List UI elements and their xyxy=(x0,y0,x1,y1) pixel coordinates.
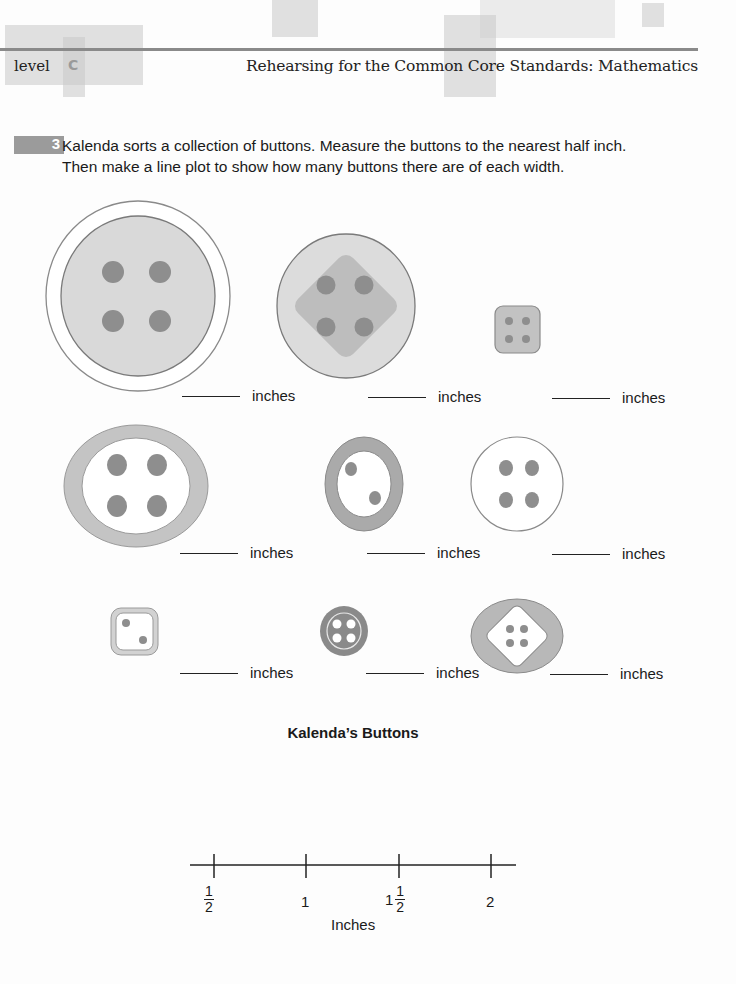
answer-4: inches xyxy=(180,544,293,561)
button-3-icon xyxy=(494,305,542,355)
unit-label: inches xyxy=(622,389,665,406)
number-line xyxy=(0,840,736,880)
unit-label: inches xyxy=(252,387,295,404)
tick-whole: 1 xyxy=(385,891,393,908)
question-number: 3 xyxy=(52,135,60,152)
answer-3: inches xyxy=(552,389,665,406)
header-rule xyxy=(0,48,698,51)
level-label: level xyxy=(14,57,50,75)
answer-5: inches xyxy=(367,544,480,561)
button-4-icon xyxy=(63,424,209,548)
prompt-line-2: Then make a line plot to show how many b… xyxy=(62,156,626,177)
answer-7: inches xyxy=(180,664,293,681)
tick-whole: 1 xyxy=(301,893,309,910)
button-9-icon xyxy=(470,598,564,674)
answer-blank-7[interactable] xyxy=(180,673,238,674)
answer-blank-3[interactable] xyxy=(552,398,610,399)
question-prompt: Kalenda sorts a collection of buttons. M… xyxy=(62,135,626,177)
answer-9: inches xyxy=(550,665,663,682)
answer-blank-8[interactable] xyxy=(366,673,424,674)
button-2-icon xyxy=(274,232,418,380)
prompt-line-1: Kalenda sorts a collection of buttons. M… xyxy=(62,135,626,156)
answer-blank-4[interactable] xyxy=(180,553,238,554)
answer-blank-9[interactable] xyxy=(550,674,608,675)
answer-blank-2[interactable] xyxy=(368,397,426,398)
answer-blank-1[interactable] xyxy=(182,396,240,397)
tick-numerator: 1 xyxy=(204,884,214,900)
tick-label-half: 12 xyxy=(204,884,214,915)
tick-label-one: 1 xyxy=(301,893,309,910)
unit-label: inches xyxy=(438,388,481,405)
button-8-icon xyxy=(319,605,369,657)
question-number-badge: 3 xyxy=(14,136,64,154)
unit-label: inches xyxy=(250,544,293,561)
tick-denominator: 2 xyxy=(396,900,404,915)
button-5-icon xyxy=(324,436,404,532)
tick-label-two: 2 xyxy=(486,893,494,910)
button-1-icon xyxy=(44,198,232,394)
answer-blank-5[interactable] xyxy=(367,553,425,554)
answer-8: inches xyxy=(366,664,479,681)
line-plot-title: Kalenda’s Buttons xyxy=(0,724,706,741)
axis-title: Inches xyxy=(331,916,375,933)
page-title: Rehearsing for the Common Core Standards… xyxy=(246,57,698,75)
header-decoration xyxy=(642,3,664,27)
answer-blank-6[interactable] xyxy=(552,554,610,555)
tick-label-one-and-half: 112 xyxy=(385,884,405,915)
level-letter: C xyxy=(68,57,78,73)
header-decoration xyxy=(480,0,615,38)
unit-label: inches xyxy=(250,664,293,681)
unit-label: inches xyxy=(437,544,480,561)
tick-whole: 2 xyxy=(486,893,494,910)
answer-1: inches xyxy=(182,387,295,404)
button-7-icon xyxy=(110,607,160,657)
header-decoration xyxy=(272,0,318,37)
button-6-icon xyxy=(469,436,565,532)
answer-6: inches xyxy=(552,545,665,562)
tick-denominator: 2 xyxy=(205,900,213,915)
answer-2: inches xyxy=(368,388,481,405)
unit-label: inches xyxy=(620,665,663,682)
tick-numerator: 1 xyxy=(395,884,405,900)
unit-label: inches xyxy=(622,545,665,562)
